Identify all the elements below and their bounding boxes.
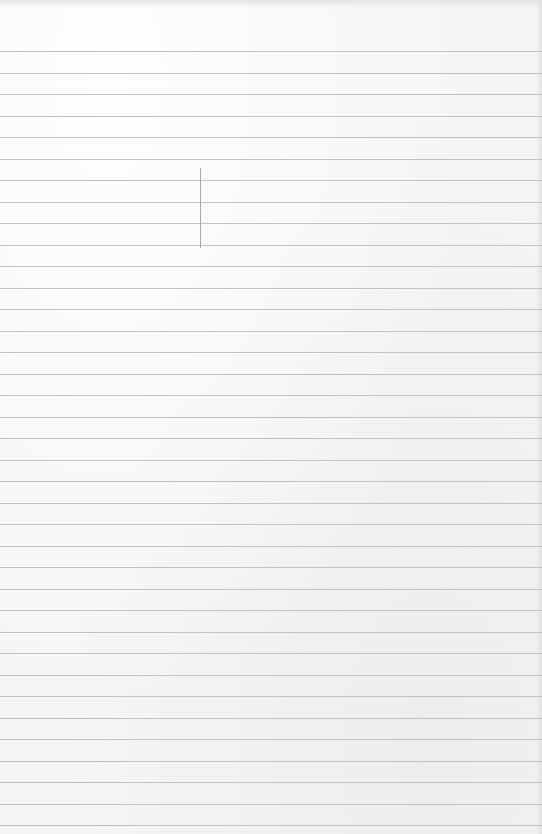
ruled-line	[0, 804, 542, 805]
lined-paper-sheet	[0, 0, 542, 834]
ruled-line	[0, 352, 542, 353]
ruled-line	[0, 374, 542, 375]
ruled-line	[0, 180, 542, 181]
ruled-line	[0, 331, 542, 332]
ruled-line	[0, 481, 542, 482]
ruled-line	[0, 266, 542, 267]
ruled-line	[0, 739, 542, 740]
ruled-line	[0, 417, 542, 418]
ruled-line	[0, 159, 542, 160]
ruled-line	[0, 546, 542, 547]
paper-top-edge	[0, 0, 542, 8]
ruled-line	[0, 288, 542, 289]
ruled-line	[0, 223, 542, 224]
ruled-line	[0, 94, 542, 95]
ruled-line	[0, 460, 542, 461]
ruled-line	[0, 73, 542, 74]
ruled-line	[0, 589, 542, 590]
ruled-line	[0, 309, 542, 310]
ruled-line	[0, 395, 542, 396]
ruled-line	[0, 632, 542, 633]
ruled-line	[0, 782, 542, 783]
ruled-line	[0, 51, 542, 52]
ruled-line	[0, 718, 542, 719]
ruled-line	[0, 438, 542, 439]
ruled-line	[0, 761, 542, 762]
ruled-line	[0, 503, 542, 504]
ruled-line	[0, 696, 542, 697]
ruled-line	[0, 524, 542, 525]
ruled-line	[0, 137, 542, 138]
ruled-line	[0, 245, 542, 246]
ruled-line	[0, 116, 542, 117]
ruled-line	[0, 825, 542, 826]
ruled-line	[0, 610, 542, 611]
ruled-line	[0, 675, 542, 676]
ruled-line	[0, 202, 542, 203]
pencil-stroke-mark	[200, 168, 201, 248]
ruled-line	[0, 653, 542, 654]
ruled-line	[0, 567, 542, 568]
